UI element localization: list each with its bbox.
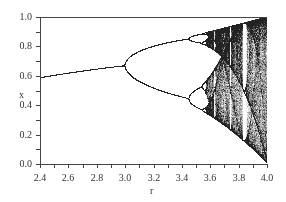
y-tick [36, 46, 40, 47]
y-tick-label: 1.0 [2, 12, 32, 22]
x-tick-label: 2.8 [85, 173, 109, 183]
x-tick-label: 3.0 [113, 173, 137, 183]
x-tick [224, 164, 225, 168]
y-tick [36, 105, 40, 106]
bifurcation-plot [40, 17, 267, 164]
y-axis-line [40, 17, 41, 164]
x-axis-title: r [150, 185, 153, 196]
y-tick [36, 17, 40, 18]
x-tick [54, 164, 55, 168]
y-tick [36, 76, 40, 77]
x-tick [68, 164, 69, 168]
x-tick [253, 164, 254, 168]
x-tick [154, 164, 155, 168]
x-tick-label: 3.8 [227, 173, 251, 183]
x-tick [196, 164, 197, 168]
y-tick-label: 0.0 [2, 159, 32, 169]
x-tick-label: 3.2 [142, 173, 166, 183]
x-tick [182, 164, 183, 168]
y-tick-label: 0.4 [2, 100, 32, 110]
x-tick [83, 164, 84, 168]
x-tick [139, 164, 140, 168]
x-tick-label: 3.4 [170, 173, 194, 183]
x-tick [111, 164, 112, 168]
y-tick-label: 0.8 [2, 41, 32, 51]
y-tick-label: 0.6 [2, 71, 32, 81]
x-tick [40, 164, 41, 168]
x-tick-label: 4.0 [255, 173, 279, 183]
y-tick [36, 61, 40, 62]
y-tick [36, 135, 40, 136]
y-tick [36, 149, 40, 150]
x-tick [210, 164, 211, 168]
y-tick [36, 32, 40, 33]
x-tick-label: 3.6 [198, 173, 222, 183]
x-tick [267, 164, 268, 168]
x-tick [125, 164, 126, 168]
y-tick [36, 120, 40, 121]
x-tick [168, 164, 169, 168]
x-tick-label: 2.6 [56, 173, 80, 183]
y-tick [36, 91, 40, 92]
x-tick [239, 164, 240, 168]
x-tick-label: 2.4 [28, 173, 52, 183]
x-tick [97, 164, 98, 168]
y-axis-title: x [19, 89, 24, 100]
y-tick-label: 0.2 [2, 130, 32, 140]
top-axis-line [40, 17, 267, 18]
